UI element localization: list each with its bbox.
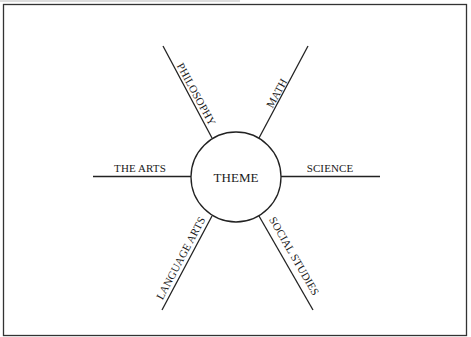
theme-web-diagram: THEME PHILOSOPHY MATH THE ARTS SCIENCE L… (0, 0, 471, 337)
label-the-arts: THE ARTS (114, 162, 166, 174)
label-science: SCIENCE (307, 162, 354, 174)
theme-label: THEME (214, 170, 259, 185)
spoke-language-arts (162, 216, 212, 310)
spoke-philosophy (163, 46, 212, 138)
label-language-arts: LANGUAGE ARTS (154, 215, 208, 302)
label-social-studies: SOCIAL STUDIES (267, 215, 322, 298)
label-math: MATH (264, 76, 290, 109)
label-philosophy: PHILOSOPHY (175, 61, 219, 128)
